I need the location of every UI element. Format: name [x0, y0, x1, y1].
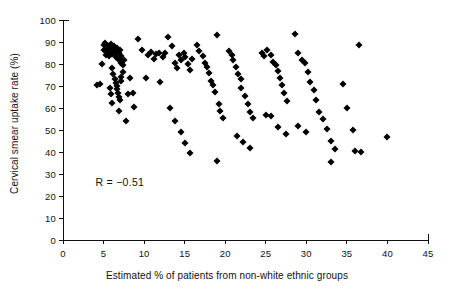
- scatter-plot-figure: 0102030405060708090100 05101520253035404…: [0, 0, 454, 294]
- data-point: [168, 43, 175, 50]
- data-point: [241, 92, 248, 99]
- data-point: [249, 114, 256, 121]
- data-point: [315, 109, 322, 116]
- data-point: [295, 49, 302, 56]
- data-point: [107, 90, 114, 97]
- data-point: [230, 56, 237, 63]
- data-point: [205, 69, 212, 76]
- data-point: [240, 139, 247, 146]
- data-point: [135, 35, 142, 42]
- data-point: [126, 75, 133, 82]
- x-tick-label: 10: [139, 248, 150, 259]
- x-tick-label: 45: [423, 248, 434, 259]
- data-point: [343, 104, 350, 111]
- x-axis-title: Estimated % of patients from non-white e…: [0, 270, 454, 281]
- data-point: [210, 81, 217, 88]
- data-point: [171, 118, 178, 125]
- x-tick-label: 0: [60, 248, 65, 259]
- data-point: [115, 108, 122, 115]
- data-point: [211, 88, 218, 95]
- data-point: [214, 157, 221, 164]
- data-point: [307, 78, 314, 85]
- data-point: [244, 100, 251, 107]
- data-point: [303, 129, 310, 136]
- data-point: [167, 104, 174, 111]
- data-point: [162, 49, 169, 56]
- data-point: [304, 68, 311, 75]
- data-point: [214, 32, 221, 39]
- data-point: [274, 67, 281, 74]
- y-axis-title-wrapper: Cervical smear uptake rate (%): [0, 0, 28, 250]
- data-point: [186, 150, 193, 157]
- data-point: [301, 59, 308, 66]
- data-point: [274, 123, 281, 130]
- data-point: [319, 115, 326, 122]
- x-tick-label: 5: [101, 248, 106, 259]
- data-point: [295, 122, 302, 129]
- data-point: [234, 132, 241, 139]
- data-point: [109, 99, 116, 106]
- x-tick-label: 40: [382, 248, 393, 259]
- x-tick-label: 20: [220, 248, 231, 259]
- data-point: [219, 114, 226, 121]
- data-point: [277, 75, 284, 82]
- data-point: [116, 97, 123, 104]
- data-point: [246, 144, 253, 151]
- data-point: [310, 87, 317, 94]
- data-point: [181, 140, 188, 147]
- data-point: [358, 148, 365, 155]
- x-tick-label: 15: [179, 248, 190, 259]
- data-point: [327, 158, 334, 165]
- data-point: [123, 118, 130, 125]
- data-point: [278, 81, 285, 88]
- data-point: [215, 100, 222, 107]
- data-point: [384, 133, 391, 140]
- correlation-annotation: R = −0.51: [95, 176, 144, 188]
- x-tick-label: 35: [341, 248, 352, 259]
- data-point: [350, 126, 357, 133]
- data-point: [238, 85, 245, 92]
- data-point: [98, 60, 105, 67]
- data-point: [283, 98, 290, 105]
- data-point: [283, 131, 290, 138]
- data-point: [281, 89, 288, 96]
- data-point: [177, 129, 184, 136]
- data-point: [291, 31, 298, 38]
- x-tick-label: 30: [301, 248, 312, 259]
- data-point: [142, 75, 149, 82]
- data-point: [173, 65, 180, 72]
- data-points-layer: [63, 20, 428, 240]
- x-tick-label: 25: [260, 248, 271, 259]
- data-point: [157, 78, 164, 85]
- data-point: [165, 33, 172, 40]
- data-point: [313, 97, 320, 104]
- data-point: [327, 137, 334, 144]
- data-point: [188, 55, 195, 62]
- data-point: [139, 46, 146, 53]
- data-point: [339, 80, 346, 87]
- data-point: [187, 66, 194, 73]
- data-point: [131, 103, 138, 110]
- data-point: [323, 125, 330, 132]
- data-point: [356, 42, 363, 49]
- data-point: [331, 145, 338, 152]
- y-axis-title: Cervical smear uptake rate (%): [9, 24, 20, 224]
- data-point: [237, 76, 244, 83]
- data-point: [97, 80, 104, 87]
